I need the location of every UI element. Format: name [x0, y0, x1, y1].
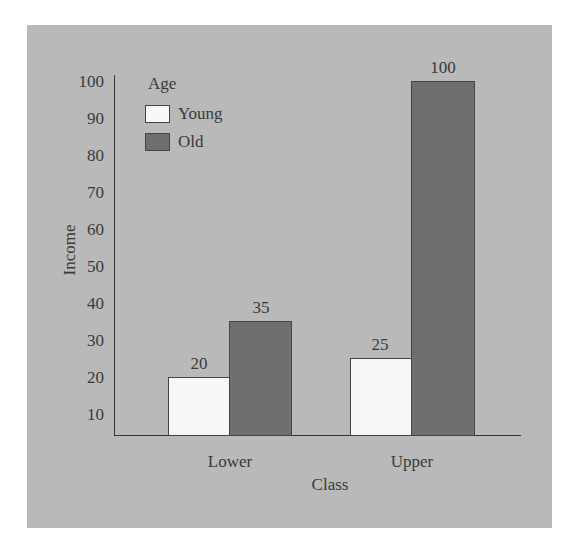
x-axis-label: Class — [280, 475, 380, 495]
y-tick-70: 70 — [64, 184, 104, 201]
value-label-upper-old: 100 — [408, 59, 478, 76]
legend-item-old: Old — [145, 132, 204, 152]
y-tick-100: 100 — [64, 73, 104, 90]
x-category-lower: Lower — [180, 452, 280, 472]
x-category-upper: Upper — [362, 452, 462, 472]
value-label-lower-old: 35 — [226, 299, 296, 316]
legend-swatch-young — [145, 105, 170, 123]
bar-upper-old — [411, 81, 475, 436]
value-label-lower-young: 20 — [164, 355, 234, 372]
value-label-upper-young: 25 — [345, 336, 415, 353]
y-tick-80: 80 — [64, 147, 104, 164]
y-tick-60: 60 — [64, 221, 104, 238]
legend-label-young: Young — [178, 104, 223, 124]
legend-title: Age — [148, 74, 176, 94]
legend-label-old: Old — [178, 132, 204, 152]
y-axis-line — [114, 75, 115, 436]
bar-lower-old — [229, 321, 292, 436]
y-tick-90: 90 — [64, 110, 104, 127]
y-tick-50: 50 — [64, 258, 104, 275]
y-tick-40: 40 — [64, 295, 104, 312]
bar-upper-young — [350, 358, 412, 436]
legend-item-young: Young — [145, 104, 223, 124]
legend-swatch-old — [145, 133, 170, 151]
y-tick-30: 30 — [64, 332, 104, 349]
bar-lower-young — [168, 377, 230, 436]
y-tick-20: 20 — [64, 369, 104, 386]
y-tick-10: 10 — [64, 406, 104, 423]
